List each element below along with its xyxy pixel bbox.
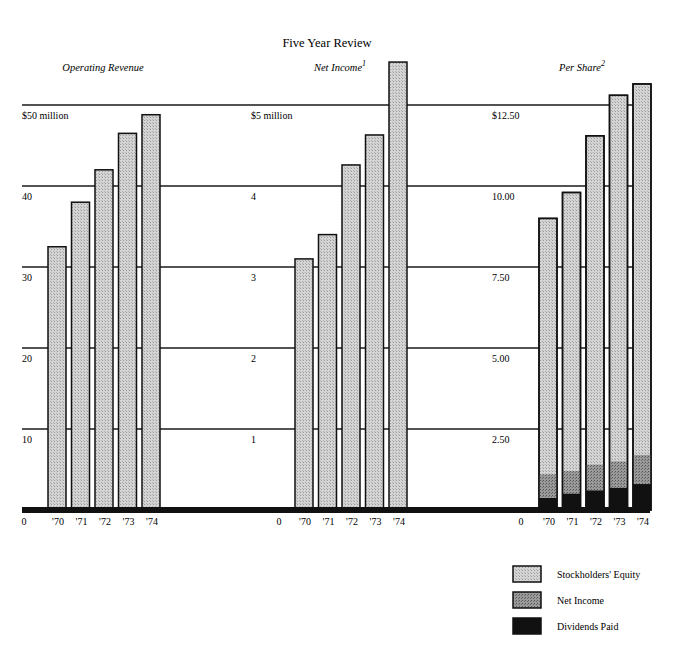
y-tick-label: 5.00 <box>492 353 510 364</box>
panel-per-share: Per Share22.505.007.5010.00$12.500'70'71… <box>492 59 651 527</box>
x-tick-label: '73 <box>370 516 382 527</box>
bar <box>366 135 384 510</box>
bar <box>142 115 160 510</box>
bar-segment-stockholders-equity <box>539 218 557 510</box>
legend-swatch <box>513 618 541 634</box>
x-zero-label: 0 <box>519 516 524 527</box>
x-tick-label: '70 <box>52 516 64 527</box>
panel-subtitle: Per Share2 <box>558 59 605 73</box>
y-tick-label: 2 <box>251 353 256 364</box>
x-tick-label: '72 <box>99 516 111 527</box>
bar-segment-stockholders-equity <box>633 84 651 510</box>
legend-swatch <box>513 566 541 582</box>
bar <box>295 259 313 510</box>
x-zero-label: 0 <box>22 516 27 527</box>
y-tick-label: $5 million <box>251 110 292 121</box>
y-tick-label: 3 <box>251 272 256 283</box>
five-year-review-chart: Five Year Review Operating Revenue102030… <box>0 0 694 668</box>
bar <box>342 165 360 510</box>
chart-title: Five Year Review <box>282 36 371 50</box>
bar-segment-stockholders-equity <box>563 192 581 510</box>
footnote-marker: 1 <box>362 59 366 68</box>
x-tick-label: '72 <box>346 516 358 527</box>
x-tick-label: '71 <box>76 516 88 527</box>
panels: Operating Revenue10203040$50 million0'70… <box>22 59 652 527</box>
x-tick-label: '73 <box>123 516 135 527</box>
bar <box>72 202 90 510</box>
bar <box>48 247 66 510</box>
legend-swatch <box>513 592 541 608</box>
bar <box>119 133 137 510</box>
x-zero-label: 0 <box>277 516 282 527</box>
legend-label: Stockholders' Equity <box>557 569 640 580</box>
bar-segment-stockholders-equity <box>586 136 604 510</box>
panel-subtitle: Operating Revenue <box>62 62 144 73</box>
x-tick-label: '74 <box>146 516 158 527</box>
y-tick-label: 7.50 <box>492 272 510 283</box>
panel-operating-revenue: Operating Revenue10203040$50 million0'70… <box>22 62 161 527</box>
y-tick-label: 40 <box>22 191 32 202</box>
y-tick-label: 10.00 <box>492 191 515 202</box>
baseline-axis <box>22 507 650 513</box>
bar <box>319 235 337 510</box>
y-tick-label: 1 <box>251 434 256 445</box>
y-tick-label: 4 <box>251 191 256 202</box>
x-tick-label: '73 <box>614 516 626 527</box>
footnote-marker: 2 <box>601 59 605 68</box>
x-tick-label: '74 <box>393 516 405 527</box>
bar <box>95 170 113 510</box>
x-tick-label: '71 <box>567 516 579 527</box>
legend: Stockholders' EquityNet IncomeDividends … <box>513 566 640 634</box>
y-tick-label: 30 <box>22 272 32 283</box>
bar-segment-stockholders-equity <box>610 95 628 510</box>
bar <box>389 62 407 510</box>
y-tick-label: $12.50 <box>492 110 520 121</box>
legend-label: Net Income <box>557 595 604 606</box>
x-tick-label: '74 <box>637 516 649 527</box>
y-tick-label: 10 <box>22 434 32 445</box>
legend-label: Dividends Paid <box>557 621 618 632</box>
x-tick-label: '70 <box>299 516 311 527</box>
panel-subtitle: Net Income1 <box>313 59 366 73</box>
baseline <box>22 507 650 513</box>
y-tick-label: 20 <box>22 353 32 364</box>
x-tick-label: '71 <box>323 516 335 527</box>
x-tick-label: '70 <box>543 516 555 527</box>
y-tick-label: $50 million <box>22 110 68 121</box>
bar-segment-dividends-paid <box>633 484 651 510</box>
y-tick-label: 2.50 <box>492 434 510 445</box>
x-tick-label: '72 <box>590 516 602 527</box>
panel-net-income: Net Income11234$5 million0'70'71'72'73'7… <box>251 59 407 527</box>
bar-segment-dividends-paid <box>610 488 628 510</box>
